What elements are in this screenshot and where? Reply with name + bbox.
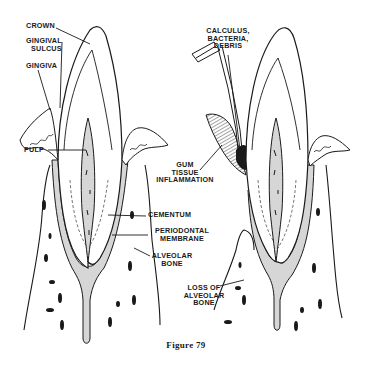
- label-calculus-3: DEBRIS: [204, 42, 252, 50]
- figure-caption: Figure 79: [0, 340, 372, 350]
- left-gingiva-right: [122, 128, 168, 165]
- label-gingival-sulcus-2: SULCUS: [31, 45, 62, 53]
- label-crown: CROWN: [26, 22, 55, 30]
- diagram-illustration: [0, 0, 372, 369]
- left-tooth: [20, 27, 168, 344]
- label-periodontal-membrane: PERIODONTAL MEMBRANE: [150, 227, 214, 242]
- dental-diagram: CROWN GINGIVAL SULCUS GINGIVA PULP CEMEN…: [0, 0, 372, 369]
- label-alveolar-2: BONE: [150, 260, 194, 268]
- label-periodontal-2: MEMBRANE: [150, 235, 214, 243]
- label-pulp: PULP: [24, 146, 44, 154]
- label-loss-of-alveolar-bone: LOSS OF ALVEOLAR BONE: [182, 284, 226, 307]
- label-loss-3: BONE: [182, 299, 226, 307]
- label-gingiva: GINGIVA: [26, 62, 57, 70]
- label-alveolar-bone: ALVEOLAR BONE: [150, 252, 194, 267]
- label-gum-tissue-inflammation: GUM TISSUE INFLAMMATION: [150, 161, 220, 184]
- label-cementum: CEMENTUM: [148, 211, 191, 219]
- right-gingiva-right: [308, 136, 350, 166]
- label-gum-3: INFLAMMATION: [150, 176, 220, 184]
- label-calculus-bacteria-debris: CALCULUS, BACTERIA, DEBRIS: [204, 27, 252, 50]
